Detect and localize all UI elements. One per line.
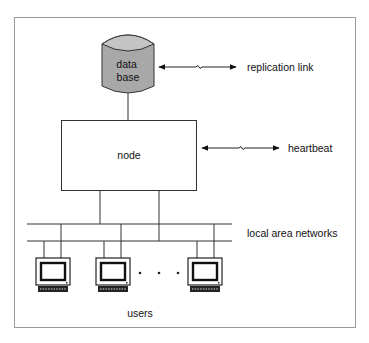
user-workstation-icon [96, 258, 130, 292]
node-label: node [117, 149, 141, 161]
cluster-architecture-diagram: data base replication link node heartbea… [0, 0, 369, 343]
lan-label: local area networks [247, 227, 337, 239]
replication-link-label: replication link [247, 61, 314, 73]
user-workstation-icon [188, 258, 222, 292]
user-workstation-icon [36, 258, 70, 292]
users-label: users [127, 307, 153, 319]
database-label: data base [116, 58, 139, 83]
heartbeat-label: heartbeat [288, 142, 332, 154]
